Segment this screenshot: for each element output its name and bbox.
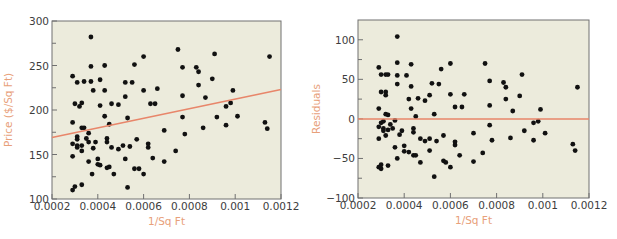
data-point — [404, 73, 409, 78]
plot-area — [52, 21, 281, 199]
data-point — [75, 137, 80, 142]
data-point — [487, 79, 492, 84]
data-point — [153, 101, 158, 106]
data-point — [381, 128, 386, 133]
y-tick-label: 100 — [335, 34, 355, 46]
data-point — [180, 115, 185, 120]
data-point — [267, 54, 272, 59]
data-point — [520, 72, 525, 77]
data-point — [111, 172, 116, 177]
data-point — [86, 131, 91, 136]
data-point — [194, 65, 199, 70]
data-point — [383, 90, 388, 95]
x-tick-label: 0.0006 — [125, 200, 162, 212]
data-point — [102, 88, 107, 93]
data-point — [543, 131, 548, 136]
data-point — [82, 79, 87, 84]
data-point — [127, 144, 132, 149]
data-point — [522, 128, 527, 133]
data-point — [441, 133, 446, 138]
data-point — [453, 105, 458, 110]
data-point — [91, 146, 96, 151]
data-point — [132, 62, 137, 67]
data-point — [70, 141, 75, 146]
data-point — [427, 93, 432, 98]
price-vs-inverse-sqft-chart: 0.00020.00040.00060.00080.0010.001210015… — [0, 0, 308, 239]
y-tick-label: 300 — [29, 15, 49, 27]
plot-area — [358, 20, 589, 198]
data-point — [487, 103, 492, 108]
data-point — [376, 106, 381, 111]
data-point — [98, 77, 103, 82]
data-point — [418, 136, 423, 141]
data-point — [386, 72, 391, 77]
data-point — [395, 60, 400, 65]
data-point — [95, 157, 100, 162]
y-axis-title: Residuals — [310, 84, 322, 134]
data-point — [510, 109, 515, 114]
data-point — [93, 140, 98, 145]
data-point — [162, 159, 167, 164]
data-point — [86, 140, 91, 145]
data-point — [148, 101, 153, 106]
data-point — [176, 47, 181, 52]
data-point — [70, 74, 75, 79]
data-point — [109, 145, 114, 150]
y-tick-label: 200 — [29, 104, 49, 116]
data-point — [265, 126, 270, 131]
data-point — [125, 116, 130, 121]
data-point — [443, 160, 448, 165]
data-point — [460, 105, 465, 110]
data-point — [503, 85, 508, 90]
data-point — [376, 65, 381, 70]
data-point — [538, 107, 543, 112]
data-point — [399, 128, 404, 133]
data-point — [79, 100, 84, 105]
y-axis-title: Price ($/Sq Ft) — [2, 73, 14, 147]
data-point — [430, 81, 435, 86]
data-point — [231, 88, 236, 93]
data-point — [453, 139, 458, 144]
data-point — [141, 88, 146, 93]
data-point — [395, 34, 400, 39]
data-point — [427, 136, 432, 141]
data-point — [457, 153, 462, 158]
data-point — [379, 72, 384, 77]
data-point — [196, 83, 201, 88]
data-point — [130, 80, 135, 85]
data-point — [416, 96, 421, 101]
data-point — [393, 145, 398, 150]
y-tick-label: 100 — [29, 193, 49, 205]
data-point — [483, 61, 488, 66]
data-point — [570, 142, 575, 147]
data-point — [182, 132, 187, 137]
data-point — [471, 131, 476, 136]
data-point — [107, 165, 112, 170]
data-point — [75, 80, 80, 85]
data-point — [439, 67, 444, 72]
y-tick-label: −100 — [326, 192, 355, 204]
data-point — [423, 139, 428, 144]
data-point — [70, 120, 75, 125]
scatter-plot-residuals: 0.00020.00040.00060.00080.0010.0012−100−… — [309, 0, 617, 239]
data-point — [379, 162, 384, 167]
data-point — [448, 165, 453, 170]
y-tick-label: 0 — [348, 113, 355, 125]
data-point — [201, 125, 206, 130]
data-point — [224, 123, 229, 128]
data-point — [89, 35, 94, 40]
x-axis-title: 1/Sq Ft — [455, 214, 492, 226]
data-point — [531, 120, 536, 125]
data-point — [214, 115, 219, 120]
data-point — [402, 143, 407, 148]
data-point — [448, 92, 453, 97]
data-point — [490, 138, 495, 143]
y-tick-label: 250 — [29, 60, 49, 72]
data-point — [73, 101, 78, 106]
data-point — [406, 150, 411, 155]
data-point — [411, 126, 416, 131]
y-tick-label: −50 — [333, 152, 355, 164]
data-point — [121, 143, 126, 148]
data-point — [402, 149, 407, 154]
data-point — [141, 172, 146, 177]
